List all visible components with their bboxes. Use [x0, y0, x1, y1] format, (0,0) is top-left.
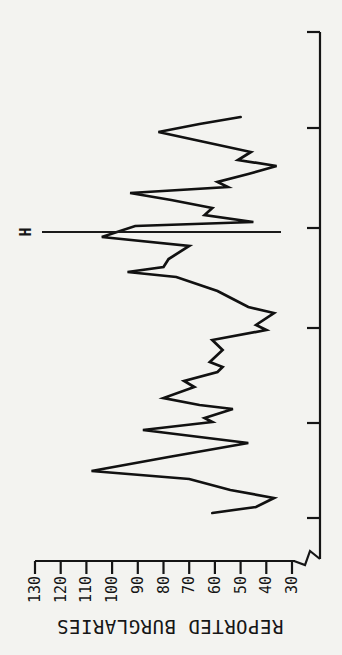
- y-tick-label: 90: [129, 576, 147, 594]
- y-tick-label: 40: [257, 576, 275, 594]
- rotated-figure: 30405060708090100110120130 REPORTED BURG…: [0, 0, 342, 655]
- y-tick-label: 30: [283, 576, 301, 594]
- y-tick-label: 50: [232, 576, 250, 594]
- burglaries-series-line: [92, 117, 277, 513]
- scanned-book-page: 30405060708090100110120130 REPORTED BURG…: [0, 0, 342, 655]
- y-tick-label: 130: [26, 576, 44, 603]
- y-tick-label: 60: [206, 576, 224, 594]
- y-tick-label: 110: [77, 576, 95, 603]
- y-tick-label: 70: [180, 576, 198, 594]
- y-tick-label: 120: [52, 576, 70, 603]
- burglaries-line-chart: 30405060708090100110120130 REPORTED BURG…: [0, 0, 342, 655]
- axis-break-mark: [294, 551, 320, 565]
- y-axis-title: REPORTED BURGLARIES: [57, 616, 284, 638]
- y-tick-label: 100: [103, 576, 121, 603]
- intervention-label: H: [17, 227, 35, 236]
- y-tick-label: 80: [155, 576, 173, 594]
